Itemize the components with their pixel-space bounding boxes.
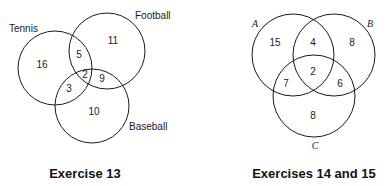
caption-exercise-13: Exercise 13	[49, 166, 121, 181]
region-a-b: 4	[310, 37, 316, 48]
region-c-only: 8	[310, 110, 316, 121]
region-football-only: 11	[108, 35, 119, 46]
football-label: Football	[135, 10, 171, 21]
region-b-c: 6	[337, 78, 343, 89]
venn-diagrams: Tennis Football Baseball 16 5 11 2 9 3 1…	[0, 0, 388, 186]
tennis-label: Tennis	[9, 23, 38, 34]
region-a-only: 15	[269, 37, 281, 48]
set-c-label: C	[312, 140, 319, 151]
set-a-label: A	[251, 18, 259, 29]
region-tennis-only: 16	[36, 59, 48, 70]
set-b-label: B	[367, 18, 373, 29]
venn-exercises-14-15: A B C 15 4 8 2 7 6 8 Exercises 14 and 15	[251, 14, 376, 181]
region-a-c: 7	[283, 78, 289, 89]
region-tennis-baseball: 3	[66, 83, 72, 94]
region-all-three: 2	[82, 69, 88, 80]
region-all-three: 2	[310, 66, 316, 77]
region-b-only: 8	[349, 37, 355, 48]
region-tennis-football: 5	[76, 49, 82, 60]
baseball-label: Baseball	[129, 121, 167, 132]
region-football-baseball: 9	[99, 73, 105, 84]
tennis-circle	[18, 31, 92, 105]
caption-exercises-14-15: Exercises 14 and 15	[252, 166, 376, 181]
venn-exercise-13: Tennis Football Baseball 16 5 11 2 9 3 1…	[9, 10, 171, 181]
region-baseball-only: 10	[88, 106, 100, 117]
